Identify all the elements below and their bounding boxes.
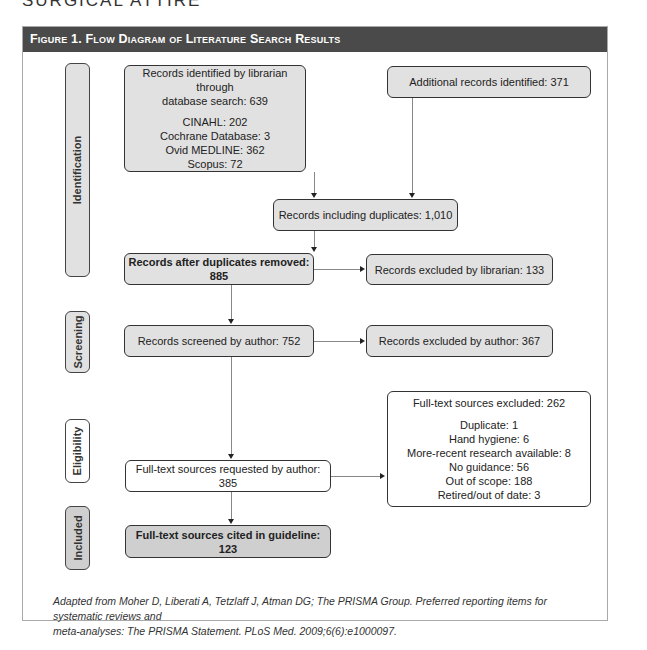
excluded-by-librarian-box: Records excluded by librarian: 133 [366, 254, 553, 285]
cited-in-guideline-box: Full-text sources cited in guideline: 12… [125, 525, 331, 558]
stage-label: Identification [72, 136, 84, 204]
excluded-by-author-label: Records excluded by author: 367 [379, 334, 540, 348]
exclusion-reason: More-recent research available: 8 [407, 446, 571, 460]
exclusion-reason: No guidance: 56 [449, 460, 529, 474]
records-with-duplicates-box: Records including duplicates: 1,010 [273, 199, 458, 231]
exclusion-reason: Retired/out of date: 3 [438, 488, 541, 502]
fulltext-requested-box: Full-text sources requested by author: 3… [125, 460, 331, 492]
stage-label: Eligibility [72, 427, 84, 476]
stage-label: Included [72, 515, 84, 560]
connector-line [331, 476, 381, 477]
connector-line [231, 492, 232, 520]
arrow-down-icon [409, 193, 415, 198]
stage-label: Screening [72, 315, 84, 368]
connector-line [314, 341, 361, 342]
caption-line1: Adapted from Moher D, Liberati A, Tetzla… [53, 594, 593, 624]
records-after-duplicates-label: Records after duplicates removed: 885 [125, 255, 313, 283]
db-item-cinahl: CINAHL: 202 [183, 115, 248, 129]
exclusion-reason: Duplicate: 1 [460, 418, 518, 432]
additional-records-label: Additional records identified: 371 [409, 75, 569, 89]
arrow-right-icon [360, 266, 365, 272]
db-item-medline: Ovid MEDLINE: 362 [165, 143, 264, 157]
exclusion-reason: Hand hygiene: 6 [449, 432, 529, 446]
arrow-right-icon [380, 473, 385, 479]
cited-in-guideline-label: Full-text sources cited in guideline: 12… [126, 528, 330, 556]
db-item-scopus: Scopus: 72 [187, 157, 242, 171]
arrow-down-icon [228, 319, 234, 324]
excluded-by-librarian-label: Records excluded by librarian: 133 [375, 263, 544, 277]
db-search-box: Records identified by librarian through … [124, 65, 306, 172]
running-head: SURGICAL ATTIRE [22, 0, 201, 11]
stage-screening: Screening [65, 311, 90, 373]
arrow-right-icon [360, 338, 365, 344]
additional-records-box: Additional records identified: 371 [387, 66, 591, 98]
db-search-title-line2: database search: 639 [162, 94, 268, 108]
connector-line [412, 98, 413, 194]
arrow-down-icon [228, 454, 234, 459]
figure-caption: Adapted from Moher D, Liberati A, Tetzla… [53, 594, 593, 639]
caption-line2: meta-analyses: The PRISMA Statement. PLo… [53, 624, 593, 639]
connector-line [314, 172, 315, 194]
connector-line [314, 269, 361, 270]
db-item-cochrane: Cochrane Database: 3 [160, 129, 270, 143]
records-with-duplicates-label: Records including duplicates: 1,010 [279, 208, 453, 222]
figure-panel: Figure 1. Flow Diagram of Literature Sea… [22, 26, 608, 621]
arrow-down-icon [311, 247, 317, 252]
connector-line [231, 285, 232, 320]
fulltext-excluded-title: Full-text sources excluded: 262 [413, 396, 565, 410]
arrow-down-icon [311, 193, 317, 198]
connector-line [231, 357, 232, 455]
arrow-down-icon [228, 519, 234, 524]
screened-by-author-box: Records screened by author: 752 [124, 325, 314, 357]
stage-eligibility: Eligibility [65, 419, 90, 483]
figure-title: Figure 1. Flow Diagram of Literature Sea… [23, 27, 607, 52]
stage-included: Included [65, 506, 90, 570]
screened-by-author-label: Records screened by author: 752 [138, 334, 301, 348]
fulltext-excluded-box: Full-text sources excluded: 262 Duplicat… [387, 391, 591, 507]
db-search-title-line1: Records identified by librarian through [125, 66, 305, 94]
stage-identification: Identification [65, 63, 90, 277]
exclusion-reason: Out of scope: 188 [446, 474, 533, 488]
records-after-duplicates-box: Records after duplicates removed: 885 [124, 253, 314, 285]
excluded-by-author-box: Records excluded by author: 367 [366, 325, 553, 357]
fulltext-requested-label: Full-text sources requested by author: 3… [126, 462, 330, 490]
connector-line [314, 231, 315, 248]
